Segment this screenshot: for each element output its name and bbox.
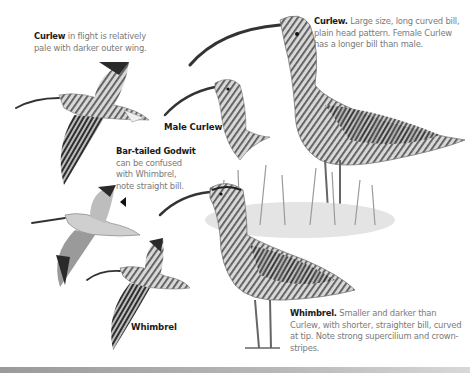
- caption-curlew-flight: Curlew in flight is relatively pale with…: [34, 31, 164, 54]
- curlew-flight-illustration: [14, 60, 154, 190]
- page-bottom-bar: [0, 367, 470, 373]
- caption-curlew-flight-title: Curlew: [34, 31, 65, 41]
- whimbrel-flight-illustration: [85, 238, 195, 353]
